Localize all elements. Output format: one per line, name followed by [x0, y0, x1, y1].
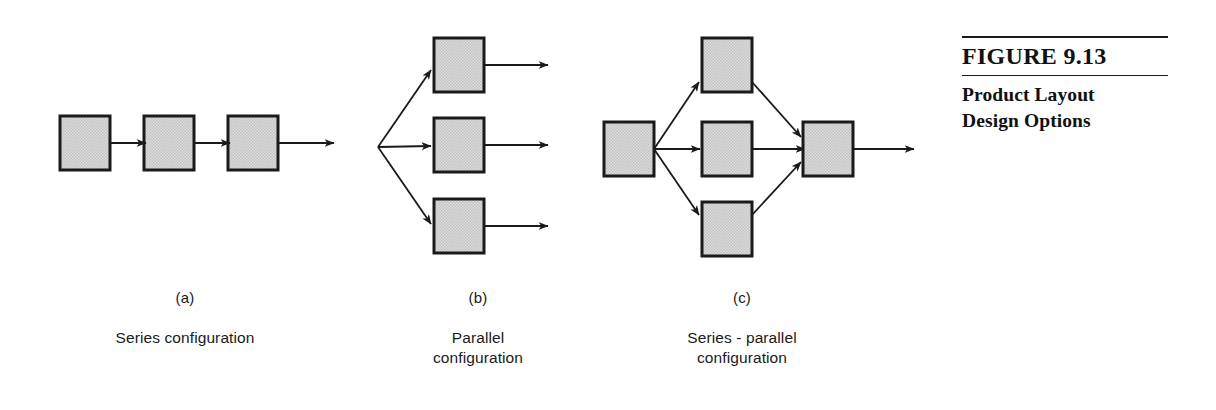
panel-b-parallel [378, 38, 548, 253]
panel-letter-b: (b) [368, 288, 588, 308]
process-box [702, 202, 752, 256]
fan-out-arrow [654, 149, 699, 215]
fan-out-arrow [378, 146, 431, 147]
converge-arrow [752, 162, 801, 215]
panel-title-a: Series configuration [60, 328, 310, 348]
panel-c-series-parallel [604, 38, 914, 256]
converge-arrow [752, 82, 801, 137]
figure-container: (a) Series configuration (b) Parallel co… [0, 0, 1216, 410]
process-box [434, 38, 484, 92]
process-box [434, 199, 484, 253]
panel-a-series [60, 116, 334, 170]
process-box [60, 116, 110, 170]
process-box [702, 122, 752, 176]
process-box [604, 122, 654, 176]
process-box [434, 118, 484, 172]
panel-letter-a: (a) [60, 288, 310, 308]
figure-caption-block: FIGURE 9.13 Product Layout Design Option… [962, 36, 1168, 134]
process-box [144, 116, 194, 170]
panel-caption-a: (a) Series configuration [60, 288, 310, 348]
panel-title-b: Parallel configuration [368, 328, 588, 368]
panel-title-c: Series - parallel configuration [612, 328, 872, 368]
product-layout-diagram [0, 0, 950, 290]
process-box [803, 122, 853, 176]
fan-out-arrow [654, 82, 699, 149]
panel-caption-b: (b) Parallel configuration [368, 288, 588, 368]
fan-out-arrow [378, 147, 431, 224]
panel-letter-c: (c) [612, 288, 872, 308]
figure-number: FIGURE 9.13 [962, 38, 1168, 75]
process-box [228, 116, 278, 170]
fan-out-arrow [378, 70, 431, 147]
panel-caption-c: (c) Series - parallel configuration [612, 288, 872, 368]
figure-title: Product Layout Design Options [962, 76, 1168, 134]
process-box [702, 38, 752, 92]
